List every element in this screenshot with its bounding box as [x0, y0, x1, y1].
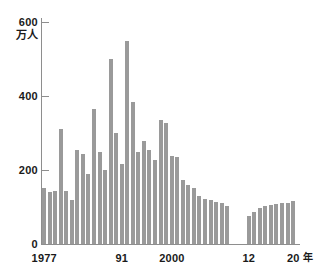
bar: [120, 164, 124, 244]
bar: [142, 141, 146, 244]
x-axis-line: [41, 244, 300, 245]
y-tick-label: 600: [19, 17, 38, 28]
y-tick-label: 400: [19, 91, 38, 102]
x-tick-label: 91: [116, 252, 129, 264]
bar: [186, 185, 190, 244]
bar: [220, 203, 224, 244]
y-tick: 400: [0, 91, 38, 102]
bar: [269, 205, 273, 244]
bar: [247, 216, 251, 244]
bar: [53, 191, 57, 244]
y-tick: 600: [0, 17, 38, 28]
bar: [136, 152, 140, 244]
bar: [86, 174, 90, 244]
plot-area: [42, 18, 300, 244]
bar: [59, 129, 63, 244]
bar: [114, 133, 118, 244]
bar: [263, 206, 267, 244]
bar: [103, 170, 107, 244]
x-tick-label: 1977: [32, 252, 57, 264]
bar: [192, 188, 196, 244]
bar: [64, 191, 68, 244]
bar: [159, 120, 163, 244]
y-tick-label: 0: [32, 239, 38, 250]
bar: [131, 102, 135, 244]
x-tick-label: 12: [243, 252, 256, 264]
x-axis-unit-label: 年: [303, 252, 313, 264]
bar: [48, 192, 52, 244]
bar: [147, 150, 151, 244]
bar: [170, 156, 174, 244]
x-tick-label: 2000: [159, 252, 184, 264]
bar-chart: 万人 0200400600 19779120001220年: [0, 0, 331, 275]
bar: [81, 154, 85, 244]
bar: [286, 203, 290, 244]
bar: [209, 200, 213, 244]
bar: [92, 109, 96, 244]
bar: [280, 203, 284, 244]
bar: [258, 208, 262, 244]
bar: [153, 160, 157, 244]
y-axis-unit-label: 万人: [0, 30, 38, 41]
bar: [225, 206, 229, 244]
bar: [197, 196, 201, 244]
bar: [109, 59, 113, 244]
y-tick: 0: [0, 239, 38, 250]
y-tick: 200: [0, 165, 38, 176]
bar: [42, 188, 46, 244]
bar: [274, 204, 278, 244]
bar: [214, 202, 218, 244]
bar: [98, 152, 102, 244]
bar: [252, 212, 256, 244]
bar: [175, 157, 179, 244]
bar: [203, 199, 207, 244]
bar: [125, 41, 129, 244]
bar: [70, 200, 74, 244]
x-tick-label: 20: [287, 252, 300, 264]
bar: [291, 201, 295, 244]
bar: [164, 123, 168, 244]
bar: [181, 180, 185, 244]
bar: [75, 150, 79, 244]
y-tick-label: 200: [19, 165, 38, 176]
